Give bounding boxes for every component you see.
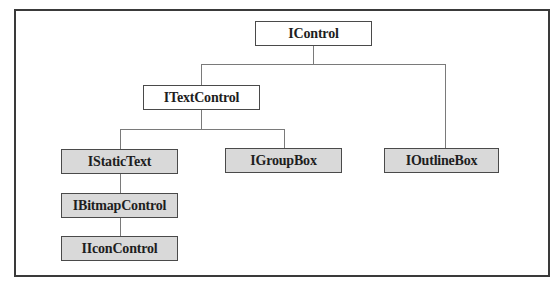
node-label: IOutlineBox bbox=[406, 153, 478, 169]
node-label: IStaticText bbox=[88, 154, 151, 170]
node-label: ITextControl bbox=[164, 90, 239, 106]
node-label: IControl bbox=[288, 26, 338, 42]
connector-icontrol-down bbox=[313, 45, 314, 65]
node-label: IIconControl bbox=[82, 241, 158, 257]
connector-to-ioutlinebox bbox=[445, 64, 446, 148]
connector-to-iiconcontrol bbox=[120, 217, 121, 236]
node-icontrol: IControl bbox=[255, 21, 372, 46]
connector-to-ibitmapcontrol bbox=[120, 173, 121, 193]
node-itextcontrol: ITextControl bbox=[143, 85, 260, 110]
node-label: IGroupBox bbox=[250, 153, 316, 169]
connector-to-istatictext bbox=[120, 129, 121, 149]
node-label: IBitmapControl bbox=[73, 198, 166, 214]
node-istatictext: IStaticText bbox=[61, 149, 178, 174]
node-ioutlinebox: IOutlineBox bbox=[384, 148, 499, 173]
connector-to-itextcontrol bbox=[201, 64, 202, 85]
connector-to-igroupbox bbox=[284, 129, 285, 148]
node-igroupbox: IGroupBox bbox=[225, 148, 342, 173]
connector-itextcontrol-down bbox=[201, 109, 202, 130]
node-ibitmapcontrol: IBitmapControl bbox=[61, 193, 178, 218]
connector-icontrol-branch bbox=[201, 64, 446, 65]
node-iiconcontrol: IIconControl bbox=[61, 236, 178, 261]
connector-itextcontrol-branch bbox=[120, 129, 284, 130]
